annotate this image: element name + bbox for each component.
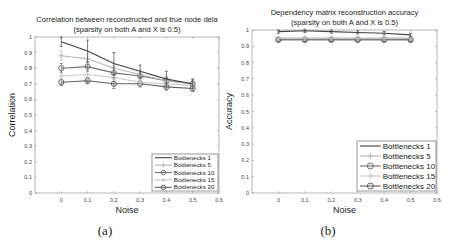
x-tick-label: 0.5	[407, 197, 415, 203]
chart-title: Dependency matrix reconstruction accurac…	[271, 8, 419, 17]
y-tick-label: 0.2	[241, 157, 249, 163]
y-tick-label: 0.6	[241, 92, 249, 98]
legend-label: Bottlenecks 15	[383, 172, 436, 181]
y-tick-label: 0.1	[241, 174, 249, 180]
y-tick-label: 0	[246, 190, 249, 196]
chart-panel-b: Dependency matrix reconstruction accurac…	[0, 0, 456, 230]
caption-b: (b)	[308, 223, 348, 239]
y-tick-label: 0.5	[241, 109, 249, 115]
legend-label: Bottlenecks 20	[383, 182, 436, 191]
x-tick-label: 0.2	[327, 197, 335, 203]
caption-a: (a)	[85, 223, 125, 239]
legend: Bottlenecks 1Bottlenecks 5Bottlenecks 10…	[357, 141, 436, 191]
y-tick-label: 0.7	[241, 76, 249, 82]
x-tick-label: 0.6	[433, 197, 441, 203]
y-axis-label: Accuracy	[224, 92, 234, 130]
x-tick-label: 0.4	[380, 197, 388, 203]
x-tick-label: 0.3	[354, 197, 362, 203]
legend-label: Bottlenecks 5	[383, 152, 432, 161]
y-tick-label: 1	[246, 27, 249, 33]
y-tick-label: 0.4	[241, 125, 249, 131]
legend-label: Bottlenecks 10	[383, 162, 436, 171]
y-tick-label: 0.9	[241, 43, 249, 49]
accuracy-chart: Dependency matrix reconstruction accurac…	[0, 0, 456, 230]
y-tick-label: 0.8	[241, 60, 249, 66]
legend-label: Bottlenecks 1	[383, 142, 432, 151]
chart-subtitle: (sparsity on both A and X is 0.5)	[291, 18, 399, 27]
y-tick-label: 0.3	[241, 141, 249, 147]
x-tick-label: 0	[277, 197, 280, 203]
x-tick-label: 0.1	[301, 197, 309, 203]
x-axis-label: Noise	[333, 205, 356, 215]
